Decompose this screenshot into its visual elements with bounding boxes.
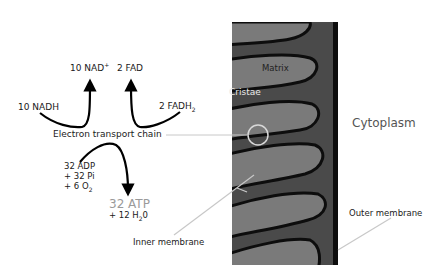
pi-text: + 32 Pi — [64, 171, 95, 181]
outer-membrane-label: Outer membrane — [349, 209, 422, 218]
inputs-label: 32 ADP + 32 Pi + 6 O2 — [64, 161, 95, 191]
nad-plus-label: 10 NAD+ — [70, 64, 109, 73]
water-end: 0 — [143, 210, 148, 220]
fadh2-label: 2 FADH2 — [159, 102, 196, 111]
outer-membrane-leader-line — [338, 218, 391, 250]
cristae-label: Cristae — [229, 88, 261, 97]
inner-membrane-label: Inner membrane — [133, 238, 204, 247]
fadh2-subscript: 2 — [192, 106, 196, 113]
outer-membrane — [333, 22, 338, 265]
atp-label: 32 ATP — [109, 198, 150, 210]
oxygen-subscript: 2 — [89, 186, 93, 193]
water-base: + 12 H — [109, 210, 139, 220]
etc-label: Electron transport chain — [53, 130, 162, 139]
adp-text: 32 ADP — [64, 161, 95, 171]
matrix-label: Matrix — [262, 64, 289, 73]
cytoplasm-label: Cytoplasm — [352, 117, 416, 129]
oxygen-base: + 6 O — [64, 181, 89, 191]
nad-plus-superscript: + — [104, 61, 109, 68]
oxygen-text: + 6 O2 — [64, 181, 95, 191]
mitochondrion — [225, 22, 338, 270]
fad-label: 2 FAD — [117, 64, 143, 73]
water-label: + 12 H20 — [109, 211, 148, 220]
nad-plus-text: 10 NAD — [70, 63, 104, 73]
nadh-label: 10 NADH — [18, 103, 59, 112]
fadh2-text: 2 FADH — [159, 101, 192, 111]
etc-diagram — [0, 0, 445, 278]
